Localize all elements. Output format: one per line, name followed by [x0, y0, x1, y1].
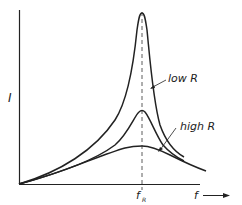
low-r-label: low R: [168, 72, 198, 85]
resonance-subscript: R: [142, 196, 146, 203]
high-r-label: high R: [180, 120, 215, 133]
x-direction-arrowhead: [223, 193, 230, 198]
y-axis-label: I: [8, 91, 12, 105]
resonance-diagram: low R high R I f R f: [0, 0, 242, 205]
curve-high-r: [19, 146, 206, 184]
x-axis-label: f: [194, 189, 200, 202]
curve-low-r: [19, 13, 184, 184]
